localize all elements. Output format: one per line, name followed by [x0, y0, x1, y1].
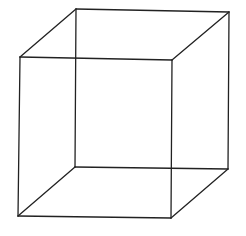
cube-edge-front-bottom-left-to-front-top-left	[18, 57, 20, 216]
cube-edge-back-top-left-to-back-top-right	[76, 9, 229, 12]
necker-cube-diagram	[0, 0, 246, 236]
cube-edge-back-top-right-to-back-bottom-right	[228, 12, 229, 169]
cube-edge-front-top-right-to-front-bottom-right	[171, 60, 172, 218]
cube-edge-front-top-left-to-front-top-right	[20, 57, 172, 60]
cube-edge-front-bottom-right-to-back-bottom-right	[171, 169, 228, 218]
cube-edge-front-top-right-to-back-top-right	[172, 12, 229, 60]
cube-edge-front-top-left-to-back-top-left	[20, 9, 76, 57]
cube-edge-front-bottom-right-to-front-bottom-left	[18, 216, 171, 218]
cube-edge-back-bottom-left-to-back-top-left	[75, 9, 76, 167]
cube-edge-back-bottom-right-to-back-bottom-left	[75, 167, 228, 169]
cube-edges	[18, 9, 229, 218]
cube-edge-front-bottom-left-to-back-bottom-left	[18, 167, 75, 216]
